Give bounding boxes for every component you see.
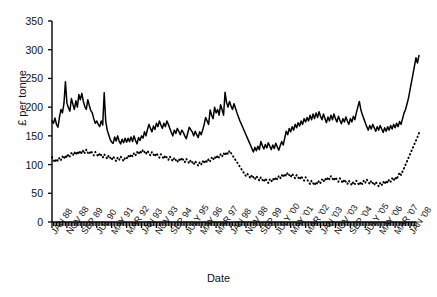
y-tick-label: 250 (17, 73, 43, 83)
plot-canvas (0, 0, 437, 297)
price-chart-figure: £ per tonne Date 050100150200250300350 J… (0, 0, 437, 297)
y-tick-label: 150 (17, 131, 43, 141)
y-tick-label: 200 (17, 102, 43, 112)
series-group (52, 55, 419, 186)
solid-series (52, 55, 419, 151)
y-tick-label: 50 (17, 188, 43, 198)
y-tick-label: 0 (17, 217, 43, 227)
y-tick-label: 300 (17, 45, 43, 55)
y-tick-label: 350 (17, 16, 43, 26)
y-tick-label: 100 (17, 160, 43, 170)
x-axis-label: Date (0, 272, 437, 284)
dotted-series (52, 133, 419, 186)
